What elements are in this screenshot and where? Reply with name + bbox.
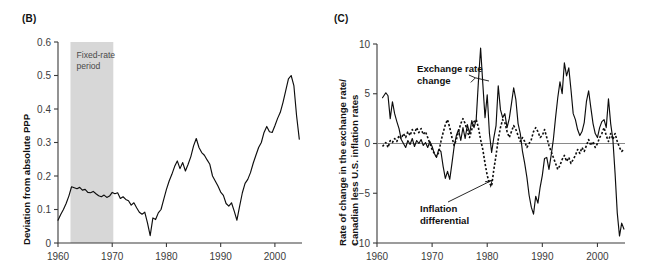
panel-c-y-axis-title-line1: Rate of change in the exchange rate/ (337, 79, 348, 246)
panel-b-x-tick-label: 2000 (264, 251, 287, 262)
panel-c-axes (373, 44, 625, 247)
panel-c-line-inflation-differential (383, 119, 624, 187)
panel-b-x-tick-label: 1990 (210, 251, 233, 262)
panel-b-y-tick-label: 0.5 (37, 70, 51, 81)
panel-c-svg: (C) −10−5051019601970198019902000 Rate o… (322, 0, 647, 278)
exchange-rate-change-annotation-line1: Exchange rate (417, 63, 483, 74)
inflation-differential-annotation-line1: Inflation (420, 203, 457, 214)
panel-b-y-tick-label: 0.3 (37, 137, 51, 148)
panel-c-y-tick-label: 0 (364, 138, 370, 149)
fixed-rate-label-line2: period (76, 61, 100, 71)
panel-b-label: (B) (22, 13, 36, 24)
panel-c: (C) −10−5051019601970198019902000 Rate o… (322, 0, 647, 278)
inflation-differential-annotation-line2: differential (420, 215, 469, 226)
panel-c-y-tick-label: 10 (359, 39, 371, 50)
inflation-differential-leader-arrow (448, 180, 492, 202)
panel-c-y-tick-label: 5 (364, 88, 370, 99)
panel-c-x-tick-label: 1960 (366, 251, 389, 262)
panel-b-y-tick-label: 0.1 (37, 204, 51, 215)
panel-c-x-tick-label: 1990 (531, 251, 554, 262)
panel-b-y-tick-label: 0.6 (37, 37, 51, 48)
panel-c-x-tick-label: 1970 (421, 251, 444, 262)
fixed-rate-shaded-region (70, 42, 113, 243)
panel-b-svg: (B) Fixed-rate period 00.10.20.30.40.50.… (0, 0, 325, 278)
panel-b: (B) Fixed-rate period 00.10.20.30.40.50.… (0, 0, 325, 278)
panel-b-y-tick-label: 0 (45, 238, 51, 249)
panel-c-x-tick-label: 1980 (476, 251, 499, 262)
panel-b-y-axis-title: Deviation from absolute PPP (21, 113, 32, 245)
panel-b-x-tick-label: 1980 (155, 251, 178, 262)
panel-b-y-tick-label: 0.2 (37, 171, 51, 182)
exchange-rate-change-annotation-line2: change (417, 75, 451, 86)
panel-c-x-tick-label: 2000 (586, 251, 609, 262)
panel-c-y-tick-label: −5 (359, 188, 371, 199)
figure-container: (B) Fixed-rate period 00.10.20.30.40.50.… (0, 0, 647, 278)
panel-b-x-tick-label: 1970 (101, 251, 124, 262)
panel-c-label: (C) (334, 13, 348, 24)
panel-b-y-tick-label: 0.4 (37, 104, 51, 115)
panel-b-x-tick-label: 1960 (47, 251, 70, 262)
fixed-rate-label-line1: Fixed-rate (76, 50, 115, 60)
panel-c-y-axis-title-line2: Canadian less U.S. inflation rates (349, 95, 360, 246)
